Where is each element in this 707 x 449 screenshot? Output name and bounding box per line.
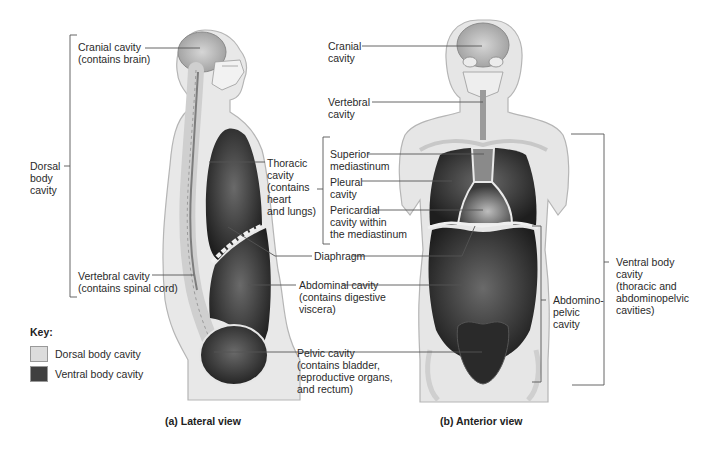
- key-label-ventral: Ventral body cavity: [55, 368, 143, 380]
- label-ventral-body-cavity: Ventral body cavity (thoracic and abdomi…: [616, 256, 689, 316]
- key-swatch-dorsal: [30, 346, 48, 362]
- label-pleural-cavity: Pleural cavity: [330, 176, 363, 200]
- ventral-bracket: [571, 134, 604, 385]
- label-diaphragm: Diaphragm: [314, 250, 365, 262]
- key-label-dorsal: Dorsal body cavity: [55, 348, 141, 360]
- label-pericardial-cavity: Pericardial cavity within the mediastinu…: [330, 204, 407, 240]
- label-lateral-vertebral-cavity: Vertebral cavity (contains spinal cord): [78, 270, 178, 294]
- caption-lateral-view: (a) Lateral view: [165, 415, 241, 427]
- anterior-superior-mediastinum: [472, 148, 494, 182]
- label-abdominal-cavity: Abdominal cavity (contains digestive vis…: [299, 279, 386, 315]
- caption-anterior-view: (b) Anterior view: [440, 415, 522, 427]
- label-dorsal-body-cavity: Dorsal body cavity: [30, 160, 60, 196]
- key-swatch-ventral: [30, 366, 48, 382]
- label-lateral-cranial-cavity: Cranial cavity (contains brain): [78, 41, 150, 65]
- lateral-pelvic-cavity: [200, 325, 268, 385]
- key-title: Key:: [30, 326, 53, 338]
- label-anterior-vertebral-cavity: Vertebral cavity: [328, 96, 370, 120]
- label-pelvic-cavity: Pelvic cavity (contains bladder, reprodu…: [297, 347, 393, 395]
- dorsal-bracket: [70, 35, 77, 297]
- label-anterior-cranial-cavity: Cranial cavity: [328, 40, 361, 64]
- label-abdominopelvic-cavity: Abdomino- pelvic cavity: [553, 294, 604, 330]
- thoracic-bracket: [323, 137, 330, 244]
- anterior-view-figure: [399, 20, 568, 402]
- label-thoracic-cavity: Thoracic cavity (contains heart and lung…: [267, 157, 316, 217]
- label-superior-mediastinum: Superior mediastinum: [330, 148, 390, 172]
